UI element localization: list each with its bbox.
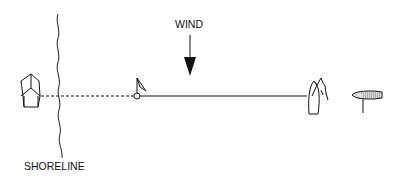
- sailboat-luffing-icon: [309, 78, 328, 114]
- shoreline-label: SHORELINE: [24, 160, 85, 172]
- shoreline-line: [57, 14, 62, 158]
- flag-icon: [137, 78, 146, 93]
- wind-label: WIND: [175, 18, 203, 30]
- sailing-diagram: WIND SHORELINE: [0, 0, 404, 185]
- anchored-boat-icon: [352, 91, 382, 113]
- wind-arrow-icon: [184, 35, 196, 76]
- buoy-marker-icon: [134, 93, 140, 99]
- boat-on-shore-icon: [21, 74, 40, 107]
